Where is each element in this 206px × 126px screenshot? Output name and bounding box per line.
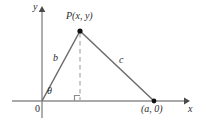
- geometry-figure: y x 0 P(x, y) (a, 0) b c θ: [0, 0, 206, 126]
- figure-canvas: [0, 0, 206, 126]
- right-angle-marker: [75, 96, 81, 102]
- vertex-p-label: P(x, y): [66, 11, 93, 21]
- vertex-p-dot: [77, 28, 82, 33]
- y-axis-label: y: [33, 2, 37, 12]
- vertex-a-label: (a, 0): [141, 104, 163, 114]
- side-c-label: c: [119, 55, 123, 65]
- origin-label: 0: [35, 104, 40, 114]
- angle-theta-label: θ: [47, 86, 52, 96]
- triangle-side-c: [80, 31, 154, 101]
- y-axis-arrowhead: [39, 6, 46, 12]
- x-axis-label: x: [188, 104, 192, 114]
- side-b-label: b: [53, 53, 58, 63]
